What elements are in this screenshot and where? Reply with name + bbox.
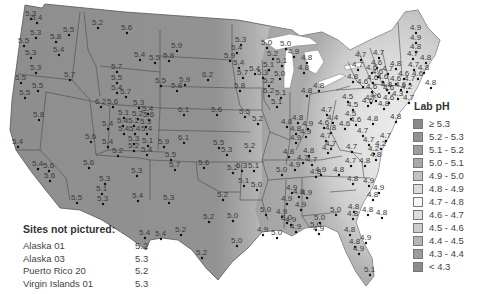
- site-dot-icon: [378, 192, 380, 194]
- site-dot-icon: [125, 96, 127, 98]
- site-dot-icon: [97, 27, 99, 29]
- site-dot-icon: [168, 202, 170, 204]
- legend-label: 4.9 - 5.0: [429, 170, 464, 181]
- site-dot-icon: [55, 41, 57, 43]
- site-name: Virgin Islands 01: [23, 278, 135, 291]
- site-ph-label: 5.5: [149, 53, 161, 62]
- site-ph-label: 6.2: [202, 70, 214, 79]
- site-ph-label: 5.6: [198, 158, 210, 167]
- site-dot-icon: [201, 257, 203, 259]
- site-ph-label: 5.0: [274, 69, 286, 78]
- site-ph-label: 5.1: [276, 56, 288, 65]
- site-ph-label: 5.2: [252, 114, 264, 123]
- site-dot-icon: [305, 136, 307, 138]
- site-ph-label: 5.9: [158, 137, 170, 146]
- site-dot-icon: [268, 69, 270, 71]
- site-ph-label: 5.1: [275, 88, 287, 97]
- site-dot-icon: [320, 174, 322, 176]
- site-ph-label: 4.9: [301, 188, 313, 197]
- site-dot-icon: [377, 76, 379, 78]
- site-dot-icon: [17, 146, 19, 148]
- legend-item: 5.0 - 5.1: [410, 156, 478, 169]
- site-row-puerto-rico-20: Puerto Rico 20 5.2: [23, 265, 183, 278]
- site-dot-icon: [372, 123, 374, 125]
- site-dot-icon: [35, 72, 37, 74]
- sites-not-pictured-title: Sites not pictured:: [23, 223, 183, 240]
- legend-swatch: [413, 223, 423, 233]
- site-dot-icon: [24, 97, 26, 99]
- site-ph-label: 5.8: [33, 110, 45, 119]
- site-dot-icon: [208, 221, 210, 223]
- site-ph-label: 4.8: [420, 53, 432, 62]
- site-ph-label: 4.8: [301, 86, 313, 95]
- site-dot-icon: [430, 87, 432, 89]
- site-ph-label: 5.5: [165, 150, 177, 159]
- site-dot-icon: [268, 95, 270, 97]
- site-dot-icon: [351, 151, 353, 153]
- site-ph-label: 5.0: [271, 228, 283, 237]
- legend-swatch: [413, 197, 423, 207]
- site-dot-icon: [286, 203, 288, 205]
- site-dot-icon: [387, 73, 389, 75]
- site-dot-icon: [375, 159, 377, 161]
- site-ph-label: 4.8: [376, 208, 388, 217]
- site-dot-icon: [36, 22, 38, 24]
- site-ph-label: 5.2: [263, 76, 275, 85]
- site-dot-icon: [154, 62, 156, 64]
- legend-swatch: [413, 210, 423, 220]
- site-dot-icon: [253, 170, 255, 172]
- site-ph-label: 5.1: [364, 265, 376, 274]
- site-dot-icon: [311, 164, 313, 166]
- site-dot-icon: [344, 128, 346, 130]
- site-ph-label: 5.0: [261, 38, 273, 47]
- site-ph-label: 5.8: [50, 32, 62, 41]
- legend-label: 4.7 - 4.8: [429, 196, 464, 207]
- site-ph-label: 5.2: [203, 212, 215, 221]
- site-ph-label: 5.4: [118, 124, 130, 133]
- site-dot-icon: [20, 82, 22, 84]
- legend: Lab pH ≥ 5.35.2 - 5.35.1 - 5.25.0 - 5.14…: [410, 99, 478, 273]
- site-dot-icon: [368, 185, 370, 187]
- legend-item: 4.4 - 4.5: [410, 234, 478, 247]
- site-ph-label: 4.7: [355, 50, 367, 59]
- site-ph-label: 4.8: [347, 72, 359, 81]
- site-dot-icon: [288, 156, 290, 158]
- site-ph-label: 5.7: [64, 70, 76, 79]
- site-ph-label: 4.8: [370, 150, 382, 159]
- site-dot-icon: [417, 78, 419, 80]
- site-dot-icon: [285, 48, 287, 50]
- site-ph-label: 4.8: [283, 147, 295, 156]
- site-dot-icon: [276, 237, 278, 239]
- site-ph-label: 5.8: [171, 81, 183, 90]
- site-ph-label: 4.9: [290, 222, 302, 231]
- site-ph-label: 5.5: [18, 36, 30, 45]
- legend-label: 5.2 - 5.3: [429, 131, 464, 142]
- site-dot-icon: [102, 203, 104, 205]
- site-dot-icon: [183, 142, 185, 144]
- site-dot-icon: [243, 185, 245, 187]
- site-ph-label: 4.9: [257, 225, 269, 234]
- site-ph-label: 5.2: [217, 190, 229, 199]
- site-ph-label: 5.7: [120, 87, 132, 96]
- site-dot-icon: [222, 199, 224, 201]
- site-dot-icon: [244, 116, 246, 118]
- site-dot-icon: [265, 214, 267, 216]
- site-dot-icon: [239, 90, 241, 92]
- site-dot-icon: [139, 59, 141, 61]
- site-dot-icon: [318, 90, 320, 92]
- site-dot-icon: [327, 152, 329, 154]
- site-ph-label: 5.8: [234, 81, 246, 90]
- site-ph-label: 5.6: [121, 23, 133, 32]
- site-dot-icon: [207, 79, 209, 81]
- site-dot-icon: [241, 170, 243, 172]
- site-dot-icon: [335, 214, 337, 216]
- site-ph-label: 5.0: [251, 180, 263, 189]
- legend-label: 4.8 - 4.9: [429, 183, 464, 194]
- site-value: 5.2: [135, 240, 148, 253]
- site-dot-icon: [117, 155, 119, 157]
- site-ph-label: 5.0: [330, 205, 342, 214]
- site-ph-label: 4.8: [425, 78, 437, 87]
- site-dot-icon: [352, 81, 354, 83]
- site-dot-icon: [423, 72, 425, 74]
- site-ph-label: 4.8: [333, 165, 345, 174]
